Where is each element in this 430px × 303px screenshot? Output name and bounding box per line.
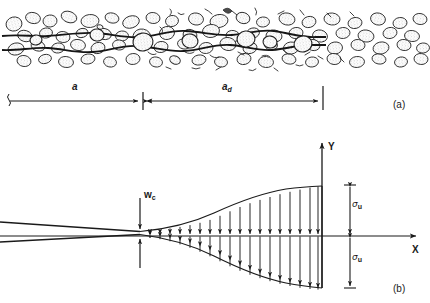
dimension-ad-label: ad [222,82,232,93]
dimension-a-label: a [72,82,78,92]
axis-x-label: X [412,245,419,255]
sigma-upper-subscript: u [358,203,362,210]
crack-opening-label: wc [144,190,156,201]
panel-b-caption: (b) [393,284,405,294]
sigma-lower-subscript: u [358,256,362,263]
axis-y-label: Y [328,142,335,152]
wc-base: w [144,189,152,200]
sigma-u-label-upper: σu [352,199,362,210]
dimension-ad-subscript: d [228,86,232,93]
figure-canvas [0,0,430,303]
wc-subscript: c [152,194,156,201]
fracture-mechanics-figure: a ad (a) (b) wc Y X σu σu [0,0,430,303]
sigma-u-label-lower: σu [352,252,362,263]
panel-a-caption: (a) [393,100,405,110]
